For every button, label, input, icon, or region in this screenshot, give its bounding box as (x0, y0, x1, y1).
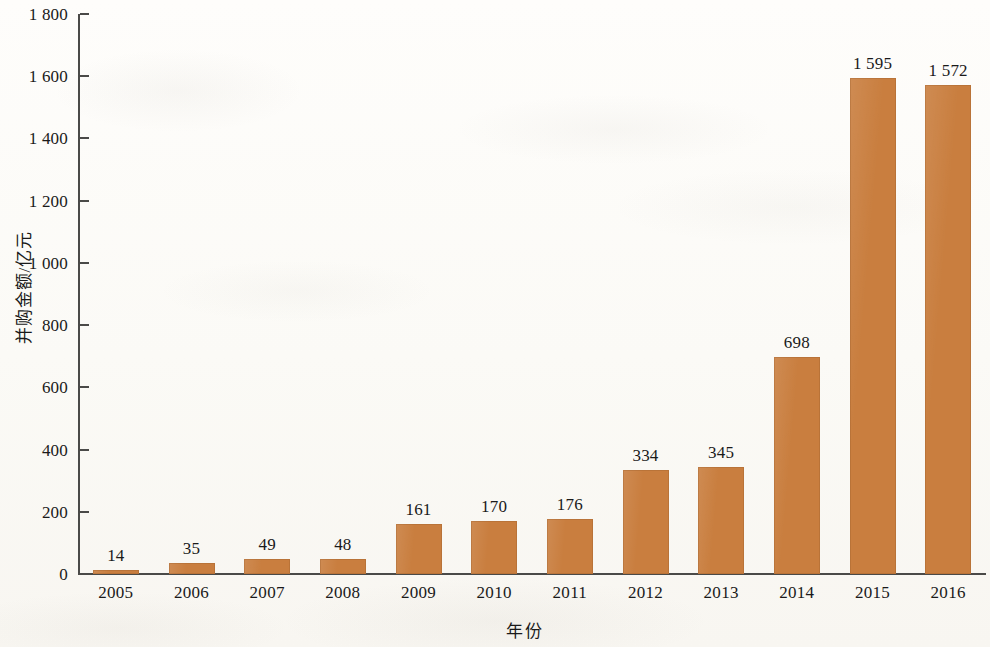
y-axis-title: 并购金额/亿元 (10, 178, 35, 398)
y-axis-tick-mark (80, 13, 89, 15)
y-axis-tick-mark (80, 75, 89, 77)
y-axis-tick-mark (80, 200, 89, 202)
bar (547, 519, 593, 574)
x-axis-tick-label: 2016 (898, 583, 990, 603)
y-axis-tick-label: 1 000 (29, 254, 68, 271)
bar-value-label: 698 (737, 334, 857, 351)
y-axis-tick-label: 1 800 (29, 6, 68, 23)
bar (698, 467, 744, 574)
y-axis-tick-label: 800 (42, 317, 68, 334)
y-axis-tick-mark (80, 262, 89, 264)
bar-value-label: 1 572 (888, 62, 990, 79)
y-axis-tick-label: 600 (42, 379, 68, 396)
y-axis-tick-label: 0 (59, 566, 68, 583)
bar (471, 521, 517, 574)
bar (320, 559, 366, 574)
y-axis-tick-label: 1 600 (29, 68, 68, 85)
y-axis-tick-label: 400 (42, 441, 68, 458)
y-axis-tick-label: 200 (42, 503, 68, 520)
y-axis-line (78, 14, 80, 575)
bar (925, 85, 971, 574)
bar (850, 78, 896, 574)
x-axis-title: 年份 (0, 617, 990, 642)
y-axis-tick-label: 1 400 (29, 130, 68, 147)
y-axis-tick-mark (80, 324, 89, 326)
bar (93, 570, 139, 574)
bar (774, 357, 820, 574)
y-axis-tick-mark (80, 386, 89, 388)
bar (623, 470, 669, 574)
y-axis-tick-mark (80, 137, 89, 139)
y-axis-tick-mark (80, 449, 89, 451)
bar (244, 559, 290, 574)
y-axis-tick-label: 1 200 (29, 192, 68, 209)
bar (169, 563, 215, 574)
bar-value-label: 176 (510, 496, 630, 513)
bar-value-label: 48 (283, 536, 403, 553)
bar-value-label: 345 (661, 444, 781, 461)
bar-chart: 02004006008001 0001 2001 4001 6001 800 2… (0, 0, 990, 647)
y-axis-tick-mark (80, 511, 89, 513)
